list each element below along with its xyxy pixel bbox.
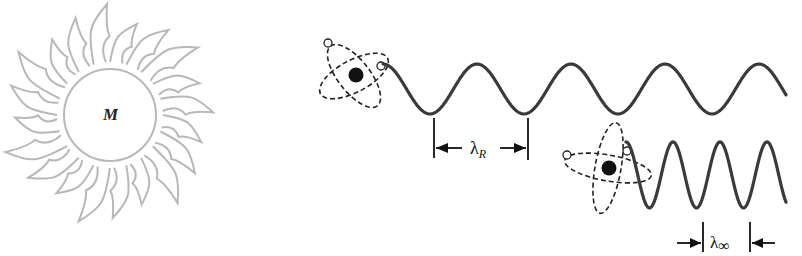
sun-ray [110, 24, 137, 64]
sun-ray [79, 167, 110, 222]
gravitational-redshift-diagram: M λR [0, 0, 802, 256]
lower-electron-1 [563, 151, 571, 159]
sun-ray [51, 40, 76, 84]
sun-ray [153, 76, 200, 95]
upper-nucleus [349, 68, 364, 83]
sun-ray [162, 115, 202, 142]
sun-ray [160, 96, 213, 114]
sun-ray [11, 86, 58, 115]
sun-ray [144, 146, 178, 203]
sun-ray [15, 115, 60, 132]
sun-ray [130, 158, 149, 205]
lower-nucleus [602, 161, 617, 176]
redshifted-wave [383, 64, 786, 114]
sun-ray [5, 135, 67, 159]
sun-ray [110, 165, 128, 218]
mass-label: M [102, 105, 119, 124]
upper-electron-1 [324, 39, 332, 47]
sun-ray [91, 4, 110, 65]
unshifted-wave [626, 142, 786, 208]
lambda-r-label: λR [470, 138, 487, 161]
sun-ray [141, 47, 198, 81]
sun-ray [68, 18, 90, 72]
lambda-infinity-label: λ∞ [710, 233, 730, 254]
